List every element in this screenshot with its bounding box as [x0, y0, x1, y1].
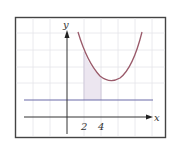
- tick-label-4: 4: [97, 121, 104, 132]
- y-axis-label: y: [62, 19, 69, 30]
- graph-figure: x y 2 4: [0, 0, 177, 149]
- tick-label-2: 2: [80, 121, 87, 132]
- x-axis-label: x: [154, 112, 160, 123]
